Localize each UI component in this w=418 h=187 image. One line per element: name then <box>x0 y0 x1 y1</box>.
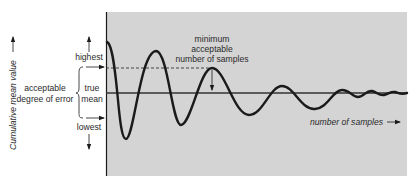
convergence-diagram: minimum acceptable number of samples num… <box>0 0 418 187</box>
annotation-line2: acceptable <box>191 44 233 54</box>
annotation-line3: number of samples <box>175 54 248 64</box>
error-brace <box>76 67 83 118</box>
true-mean-label-line1: true <box>85 83 100 93</box>
error-label-line2: degree of error <box>17 94 74 104</box>
true-mean-label-line2: mean <box>81 94 103 104</box>
error-label-line1: acceptable <box>24 83 66 93</box>
annotation-line1: minimum <box>195 34 230 44</box>
x-axis-label: number of samples <box>310 117 384 127</box>
y-axis-label: Cumulative mean value <box>8 60 18 150</box>
plot-panel <box>106 12 407 176</box>
highest-label: highest <box>75 52 103 62</box>
lowest-label: lowest <box>77 122 102 132</box>
